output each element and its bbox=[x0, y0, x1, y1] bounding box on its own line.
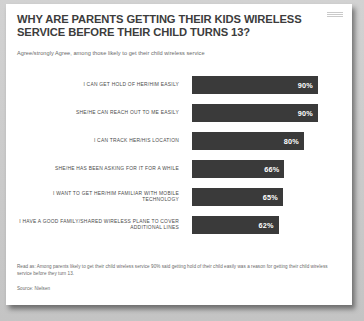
bar-category-label: SHE/HE HAS BEEN ASKING FOR IT FOR A WHIL… bbox=[17, 160, 185, 178]
bar-value-label: 90% bbox=[298, 81, 318, 90]
bar-value-label: 80% bbox=[284, 137, 304, 146]
chart-row: I CAN TRACK HER/HIS LOCATION80% bbox=[17, 132, 341, 150]
bar-chart: I CAN GET HOLD OF HER/HIM EASILY90%SHE/H… bbox=[17, 76, 341, 246]
footnote-read-as: Read as: Among parents likely to get the… bbox=[17, 263, 339, 277]
page-title: WHY ARE PARENTS GETTING THEIR KIDS WIREL… bbox=[17, 13, 317, 40]
chart-card: WHY ARE PARENTS GETTING THEIR KIDS WIREL… bbox=[6, 4, 352, 305]
bar-category-label: I CAN GET HOLD OF HER/HIM EASILY bbox=[17, 76, 185, 94]
source-label: Source: Nielsen bbox=[17, 285, 50, 292]
bar: 80% bbox=[192, 132, 304, 150]
bar-value-label: 66% bbox=[264, 165, 284, 174]
nielsen-logo-icon bbox=[327, 12, 343, 19]
bar: 90% bbox=[192, 76, 318, 94]
bar-category-label: SHE/HE CAN REACH OUT TO ME EASILY bbox=[17, 104, 185, 122]
bar: 62% bbox=[192, 216, 279, 234]
bar: 90% bbox=[192, 104, 318, 122]
bar-category-label: I HAVE A GOOD FAMILY/SHARED WIRELESS PLA… bbox=[17, 216, 185, 234]
chart-row: SHE/HE HAS BEEN ASKING FOR IT FOR A WHIL… bbox=[17, 160, 341, 178]
chart-subtitle: Agree/strongly Agree, among those likely… bbox=[17, 49, 337, 57]
bar-value-label: 62% bbox=[259, 221, 279, 230]
chart-row: I HAVE A GOOD FAMILY/SHARED WIRELESS PLA… bbox=[17, 216, 341, 234]
chart-row: SHE/HE CAN REACH OUT TO ME EASILY90% bbox=[17, 104, 341, 122]
chart-row: I WANT TO GET HER/HIM FAMILIAR WITH MOBI… bbox=[17, 188, 341, 206]
bar: 65% bbox=[192, 188, 283, 206]
chart-row: I CAN GET HOLD OF HER/HIM EASILY90% bbox=[17, 76, 341, 94]
bar-category-label: I CAN TRACK HER/HIS LOCATION bbox=[17, 132, 185, 150]
bar-value-label: 65% bbox=[263, 193, 283, 202]
bar: 66% bbox=[192, 160, 284, 178]
bar-value-label: 90% bbox=[298, 109, 318, 118]
bar-category-label: I WANT TO GET HER/HIM FAMILIAR WITH MOBI… bbox=[17, 188, 185, 206]
